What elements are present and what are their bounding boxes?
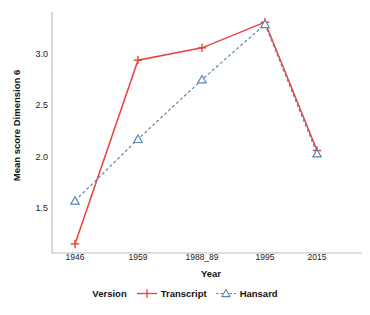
series-hansard: [71, 20, 321, 204]
data-point-transcript-1946[interactable]: [71, 240, 79, 248]
data-point-transcript-1959[interactable]: [134, 56, 142, 64]
y-tick-2.0: 2.0: [20, 152, 48, 162]
legend-item-hansard[interactable]: Hansard: [216, 288, 278, 299]
y-axis-title: Mean score Dimension 6: [11, 36, 22, 216]
legend-key-hansard-triangle-icon: [216, 288, 236, 299]
legend-label-transcript: Transcript: [161, 288, 207, 299]
data-point-hansard-1946[interactable]: [71, 197, 79, 205]
legend-item-transcript[interactable]: Transcript: [137, 288, 207, 299]
series-line-transcript: [75, 22, 317, 244]
data-series-layer: [71, 18, 321, 248]
y-tick-1.5: 1.5: [20, 203, 48, 213]
x-tick-label-1988_89: 1988_89: [185, 252, 218, 262]
y-tick-3.0: 3.0: [20, 49, 48, 59]
series-transcript: [71, 18, 321, 248]
x-tick-label-1959: 1959: [129, 252, 148, 262]
axis-lines: [52, 12, 362, 253]
y-tick-2.5: 2.5: [20, 100, 48, 110]
y-tick-label: 2.5: [22, 100, 48, 110]
chart-container: Mean score Dimension 6 1.52.02.53.0 1946…: [0, 0, 370, 315]
legend-key-transcript-plus-icon: [137, 288, 157, 299]
y-tick-label: 2.0: [22, 152, 48, 162]
series-line-hansard: [75, 24, 317, 201]
x-tick-label-1946: 1946: [66, 252, 85, 262]
legend-label-hansard: Hansard: [240, 288, 278, 299]
chart-legend: Version Transcript Hansard: [0, 288, 370, 299]
data-point-transcript-1988_89[interactable]: [198, 44, 206, 52]
legend-title: Version: [92, 288, 126, 299]
y-tick-label: 3.0: [22, 49, 48, 59]
x-tick-label-1995: 1995: [256, 252, 275, 262]
x-axis-title: Year: [52, 268, 370, 279]
y-tick-label: 1.5: [22, 203, 48, 213]
x-tick-label-2015: 2015: [308, 252, 327, 262]
